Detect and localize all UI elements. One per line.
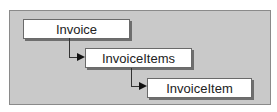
node-invoice-items: InvoiceItems — [85, 48, 192, 68]
node-label: InvoiceItems — [102, 51, 175, 66]
node-invoice: Invoice — [23, 19, 130, 39]
arrow-right-icon — [139, 82, 147, 90]
node-label: Invoice — [56, 22, 97, 37]
node-label: InvoiceItem — [166, 81, 232, 96]
connector-line — [131, 68, 132, 86]
connector-line — [69, 38, 70, 57]
arrow-right-icon — [77, 53, 85, 61]
node-invoice-item: InvoiceItem — [147, 78, 252, 98]
